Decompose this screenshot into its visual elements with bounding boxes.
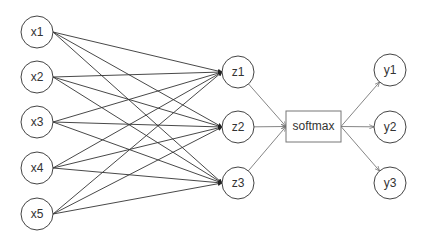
edge-x4-z2 — [53, 127, 222, 168]
node-x2-label: x2 — [21, 67, 53, 87]
edge-z1-softmax — [249, 84, 286, 126]
node-y3-label: y3 — [374, 173, 406, 193]
network-diagram — [0, 0, 424, 244]
node-z2-label: z2 — [222, 117, 254, 137]
edge-z3-softmax — [248, 127, 286, 171]
node-z3-label: z3 — [222, 173, 254, 193]
edge-x3-z2 — [53, 122, 222, 127]
edge-x5-z3 — [53, 183, 222, 214]
node-x5-label: x5 — [21, 204, 53, 224]
node-x3-label: x3 — [21, 112, 53, 132]
node-x4-label: x4 — [21, 158, 53, 178]
edge-x1-z3 — [53, 32, 222, 183]
node-y2-label: y2 — [374, 117, 406, 137]
node-x1-label: x1 — [21, 22, 53, 42]
edge-x3-z3 — [53, 122, 222, 183]
node-z1-label: z1 — [222, 62, 254, 82]
edge-x2-z1 — [53, 72, 222, 77]
softmax-label: softmax — [286, 111, 341, 142]
edge-x4-z1 — [53, 72, 222, 168]
node-y1-label: y1 — [374, 60, 406, 80]
edge-x1-z1 — [53, 32, 222, 72]
